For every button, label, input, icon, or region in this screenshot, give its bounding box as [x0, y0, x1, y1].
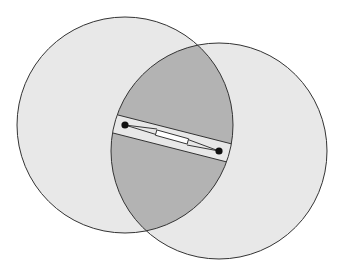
left-center-dot — [121, 121, 128, 128]
right-center-dot — [215, 147, 222, 154]
two-circle-overlap-diagram — [0, 0, 342, 273]
